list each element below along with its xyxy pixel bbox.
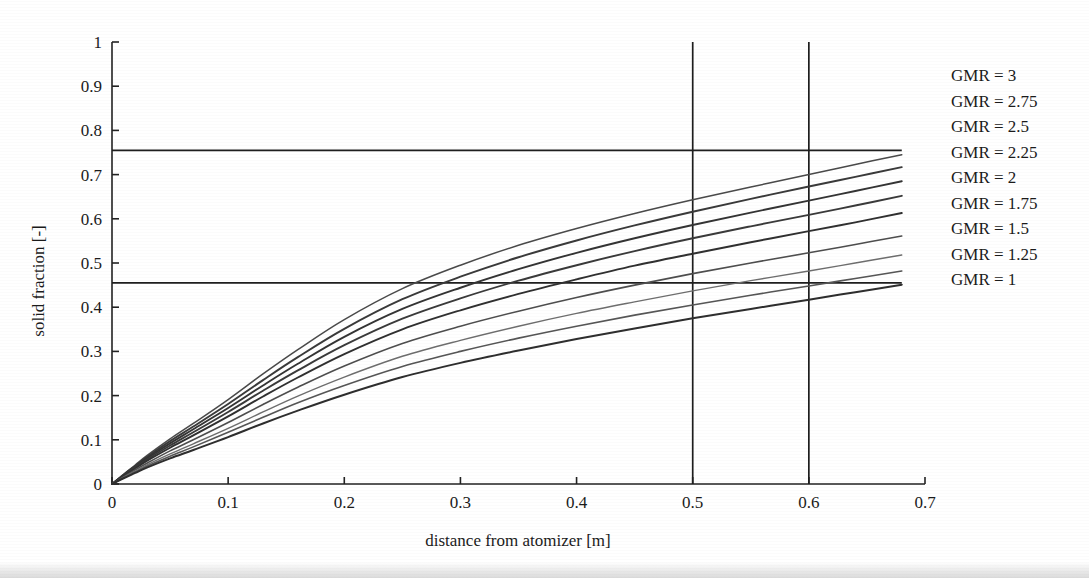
y-tick-label: 0.5 — [81, 254, 102, 273]
chart-figure: 00.10.20.30.40.50.60.7 00.10.20.30.40.50… — [0, 0, 1089, 578]
legend-item-label: GMR = 1.75 — [951, 194, 1038, 213]
legend-item-label: GMR = 3 — [951, 66, 1016, 85]
legend-item: GMR = 2 — [951, 165, 1086, 191]
y-tick-label: 0.8 — [81, 121, 102, 140]
legend-item: GMR = 2.75 — [951, 89, 1086, 115]
x-tick-label: 0.2 — [334, 493, 355, 512]
y-tick-label: 0.3 — [81, 342, 102, 361]
legend-item: GMR = 1.5 — [951, 216, 1086, 242]
x-axis-title: distance from atomizer [m] — [425, 531, 611, 550]
line-chart: 00.10.20.30.40.50.60.7 00.10.20.30.40.50… — [0, 0, 1089, 578]
x-tick-label: 0.3 — [450, 493, 471, 512]
legend-item: GMR = 3 — [951, 63, 1086, 89]
y-tick-label: 0.4 — [81, 298, 103, 317]
legend-item: GMR = 1 — [951, 267, 1086, 293]
figure-background — [0, 0, 1089, 578]
legend-item-label: GMR = 1.5 — [951, 219, 1029, 238]
x-tick-label: 0.1 — [218, 493, 239, 512]
legend-item: GMR = 2.5 — [951, 114, 1086, 140]
legend-item-label: GMR = 2.25 — [951, 143, 1038, 162]
legend-item: GMR = 1.25 — [951, 242, 1086, 268]
y-tick-label: 0.1 — [81, 431, 102, 450]
x-tick-label: 0 — [108, 493, 117, 512]
legend-item-label: GMR = 1 — [951, 270, 1016, 289]
y-tick-label: 1 — [94, 33, 103, 52]
legend-item-label: GMR = 2.5 — [951, 117, 1029, 136]
y-axis-title: solid fraction [-] — [29, 225, 48, 336]
y-tick-label: 0.9 — [81, 77, 102, 96]
x-tick-label: 0.5 — [682, 493, 703, 512]
legend-item: GMR = 2.25 — [951, 140, 1086, 166]
legend-item: GMR = 1.75 — [951, 191, 1086, 217]
legend-item-label: GMR = 2.75 — [951, 92, 1038, 111]
x-tick-label: 0.4 — [566, 493, 588, 512]
chart-legend: GMR = 3GMR = 2.75GMR = 2.5GMR = 2.25GMR … — [951, 63, 1086, 293]
y-tick-label: 0.7 — [81, 166, 103, 185]
y-tick-label: 0 — [94, 475, 103, 494]
legend-item-label: GMR = 1.25 — [951, 245, 1038, 264]
x-tick-label: 0.7 — [914, 493, 936, 512]
y-tick-label: 0.6 — [81, 210, 102, 229]
x-tick-label: 0.6 — [798, 493, 819, 512]
legend-item-label: GMR = 2 — [951, 168, 1016, 187]
y-tick-label: 0.2 — [81, 387, 102, 406]
